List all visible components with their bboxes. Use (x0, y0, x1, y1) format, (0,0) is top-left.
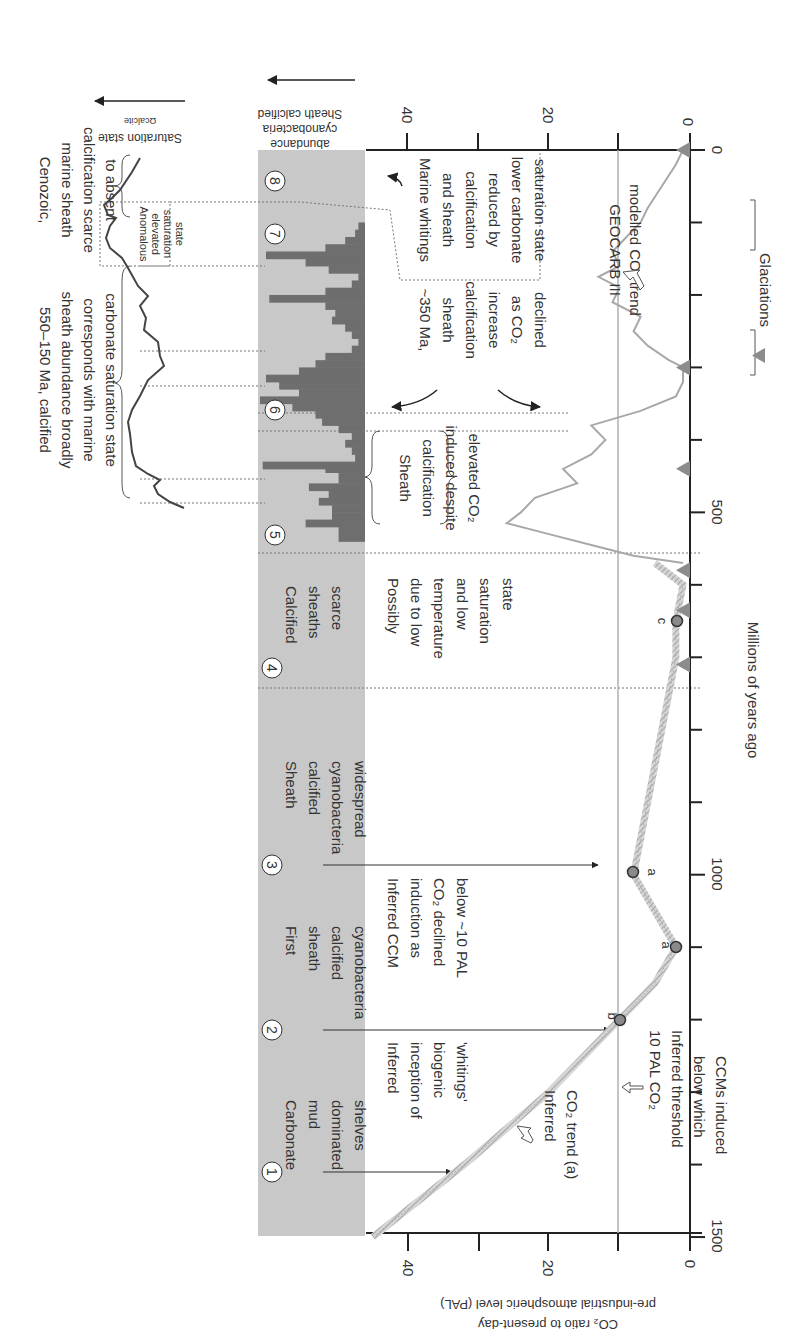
svg-text:mud: mud (306, 1100, 323, 1129)
inferred-trend-label: Inferred CO₂ trend (a) (542, 1090, 581, 1179)
svg-text:carbonate saturation state: carbonate saturation state (103, 293, 120, 466)
svg-text:Calcified: Calcified (283, 586, 300, 644)
co2-tick-20: 20 (540, 1260, 557, 1277)
svg-text:sheaths: sheaths (306, 586, 323, 639)
note-550-150: 550–150 Ma, calcified sheath abundance b… (37, 292, 120, 469)
svg-text:GEOCARB III: GEOCARB III (607, 204, 624, 296)
svg-text:reduced by: reduced by (486, 173, 503, 248)
svg-text:550–150 Ma, calcified: 550–150 Ma, calcified (37, 307, 54, 453)
saturation-axis-title: Ωcalcite Saturation state (98, 116, 182, 145)
point-b: b (605, 1012, 626, 1025)
svg-text:1: 1 (264, 1168, 280, 1176)
svg-text:Inferred: Inferred (542, 1090, 559, 1142)
svg-text:calcification scarce: calcification scarce (81, 127, 98, 253)
svg-text:elevated: elevated (150, 213, 162, 255)
svg-text:cyanobacteria: cyanobacteria (329, 761, 346, 855)
co2-axis (366, 1233, 702, 1251)
svg-text:a: a (659, 941, 674, 949)
svg-text:marine sheath: marine sheath (59, 142, 76, 237)
svg-text:induction as: induction as (408, 878, 425, 958)
note-350ma: ~350 Ma, sheath calcification increase a… (417, 281, 549, 359)
svg-text:5: 5 (267, 531, 283, 539)
svg-text:Sheath: Sheath (397, 454, 414, 502)
svg-text:below ~10 PAL: below ~10 PAL (454, 878, 471, 978)
co2-tick-40: 40 (400, 1260, 417, 1277)
abundance-axis (366, 133, 700, 150)
svg-text:abundance: abundance (270, 137, 330, 151)
co2-axis-title: pre-industrial atmospheric level (PAL) C… (440, 1297, 656, 1332)
glacier-legend-icon (752, 348, 765, 363)
svg-text:shelves: shelves (352, 1100, 369, 1151)
svg-text:biogenic: biogenic (431, 1042, 448, 1098)
svg-text:and low: and low (454, 578, 471, 630)
svg-text:modelled CO₂ trend: modelled CO₂ trend (627, 184, 644, 316)
stage-5-marker: 5 (265, 525, 285, 545)
co2-tick-0: 0 (682, 1260, 699, 1268)
svg-text:Sheath calcified: Sheath calcified (258, 107, 343, 121)
svg-text:calcified: calcified (329, 926, 346, 980)
svg-text:as CO₂: as CO₂ (509, 296, 526, 345)
stage-1-marker: 1 (262, 1162, 282, 1182)
threshold-label: 10 PAL CO₂ Inferred threshold below whic… (647, 1030, 730, 1154)
svg-text:Saturation state: Saturation state (98, 131, 182, 145)
svg-text:declined: declined (532, 292, 549, 348)
svg-text:sheath abundance broadly: sheath abundance broadly (59, 292, 76, 469)
svg-text:calcification: calcification (463, 281, 480, 359)
abund-tick-20: 20 (540, 107, 557, 124)
svg-text:due to low: due to low (408, 578, 425, 647)
svg-text:and sheath: and sheath (440, 173, 457, 247)
glaciation-triangle (676, 461, 690, 477)
svg-text:c: c (655, 618, 670, 625)
note-ccm: Inferred CCM induction as CO₂ declined b… (385, 878, 471, 978)
svg-text:8: 8 (267, 177, 283, 185)
svg-text:4: 4 (264, 664, 280, 672)
svg-text:elevated CO₂: elevated CO₂ (466, 433, 483, 522)
threshold-pointer-arrow (622, 1082, 643, 1093)
svg-text:Ωcalcite: Ωcalcite (124, 116, 156, 126)
abundance-axis-title: Sheath calcified cyanobacteria abundance (258, 107, 343, 151)
stage-4-marker: 4 (262, 658, 282, 678)
svg-text:Inferred CCM: Inferred CCM (385, 878, 402, 968)
svg-text:calcified: calcified (306, 761, 323, 815)
svg-text:temperature: temperature (431, 578, 448, 659)
svg-text:corresponds with marine: corresponds with marine (81, 298, 98, 461)
svg-text:pre-industrial atmospheric lev: pre-industrial atmospheric level (PAL) (440, 1297, 656, 1312)
svg-text:Inferred: Inferred (385, 1042, 402, 1094)
svg-text:state: state (174, 222, 186, 246)
svg-text:~350 Ma,: ~350 Ma, (417, 289, 434, 352)
svg-text:state: state (500, 578, 517, 611)
svg-text:3: 3 (264, 861, 280, 869)
glaciations-legend: Glaciations (750, 200, 774, 375)
tick-0: 0 (709, 146, 726, 154)
svg-text:to absent: to absent (103, 159, 120, 222)
stage-3-marker: 3 (262, 855, 282, 875)
tick-1000: 1000 (709, 857, 726, 890)
svg-text:10 PAL CO₂: 10 PAL CO₂ (647, 1030, 664, 1110)
svg-text:Cenozoic,: Cenozoic, (37, 157, 54, 224)
stage-2-marker: 2 (262, 1020, 282, 1040)
svg-text:Carbonate: Carbonate (283, 1100, 300, 1170)
stage-8-marker: 8 (265, 171, 285, 191)
svg-text:CO₂ ratio to present-day: CO₂ ratio to present-day (477, 1317, 618, 1332)
svg-text:CO₂ trend (a): CO₂ trend (a) (564, 1090, 581, 1179)
stage-6-marker: 6 (265, 400, 285, 420)
note-elevated: Sheath calcification induced despite ele… (397, 425, 483, 530)
svg-text:b: b (605, 1012, 620, 1019)
abund-tick-0: 0 (680, 118, 697, 126)
svg-text:Glaciations: Glaciations (757, 253, 774, 327)
svg-text:cyanobacteria: cyanobacteria (352, 926, 369, 1020)
svg-text:saturation: saturation (162, 210, 174, 258)
svg-text:Anomalous: Anomalous (138, 206, 150, 262)
note-marine-whitings: Marine whitings and sheath calcification… (417, 157, 549, 264)
point-a-1000: a (628, 867, 660, 878)
svg-text:calcification: calcification (420, 439, 437, 517)
svg-text:2: 2 (264, 1026, 280, 1034)
svg-text:a: a (645, 868, 660, 876)
point-c: c (655, 616, 683, 627)
note-low-temp: Possibly due to low temperature and low … (385, 578, 517, 659)
svg-text:Possibly: Possibly (385, 578, 402, 634)
svg-text:First: First (283, 926, 300, 956)
co2-calcification-chart: 1 2 3 4 5 6 7 8 Carbonate mud dominated … (0, 0, 794, 1336)
glaciation-triangle (676, 142, 690, 158)
svg-text:saturation: saturation (477, 578, 494, 644)
